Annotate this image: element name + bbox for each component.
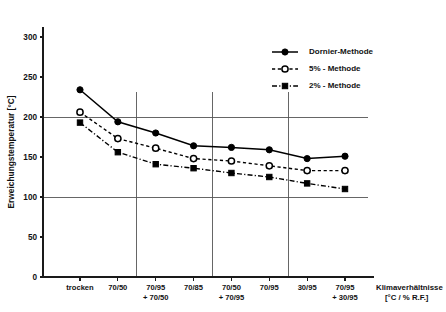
x-axis-ticks: trocken70/5070/95+ 70/5070/8570/50+ 70/9… [66, 277, 358, 302]
x-tick-label: trocken [66, 283, 94, 292]
marker-filled-square [229, 170, 234, 175]
legend-item-1: Dornier-Methode [272, 47, 374, 56]
y-tick-label: 250 [23, 73, 37, 82]
x-tick-label: 70/85 [184, 283, 204, 292]
axis-labels: Erweichungstemperatur [°C]Klimaverhältni… [6, 95, 443, 301]
marker-open-circle [77, 109, 83, 115]
marker-filled-square [153, 162, 158, 167]
legend-label: Dornier-Methode [309, 47, 374, 56]
y-axis-ticks: 050100150200250300 [23, 33, 43, 282]
chart-figure: 050100150200250300 trocken70/5070/95+ 70… [0, 0, 446, 312]
x-axis-title-line1: Klimaverhältnisse [376, 283, 443, 292]
marker-filled-circle [266, 147, 272, 153]
marker-open-circle [342, 168, 348, 174]
y-tick-label: 150 [23, 153, 37, 162]
x-tick-label: 30/95 [298, 283, 318, 292]
marker-open-circle [266, 163, 272, 169]
x-tick-label: 70/95 [146, 283, 166, 292]
marker-filled-square [267, 174, 272, 179]
marker-filled-square [191, 166, 196, 171]
marker-filled-circle [190, 143, 196, 149]
x-tick-label: 70/95 [335, 283, 355, 292]
marker-filled-circle [228, 144, 234, 150]
x-tick-label-second-line: + 70/95 [219, 293, 245, 302]
marker-filled-circle [115, 119, 121, 125]
marker-filled-square [342, 186, 347, 191]
x-tick-label: 70/95 [260, 283, 280, 292]
legend-label: 2% - Methode [309, 81, 361, 90]
y-axis-title: Erweichungstemperatur [°C] [6, 95, 16, 208]
y-tick-label: 100 [23, 193, 37, 202]
y-tick-label: 200 [23, 113, 37, 122]
marker-filled-square [304, 181, 309, 186]
marker-filled-square [77, 120, 82, 125]
y-tick-label: 0 [32, 273, 37, 282]
x-tick-label: 70/50 [108, 283, 127, 292]
marker-filled-circle [282, 49, 288, 55]
marker-open-circle [282, 66, 288, 72]
erweichungstemperatur-line-chart: 050100150200250300 trocken70/5070/95+ 70… [0, 0, 446, 312]
x-tick-label-second-line: + 70/50 [143, 293, 169, 302]
marker-open-circle [190, 156, 196, 162]
x-tick-label: 70/50 [222, 283, 241, 292]
marker-open-circle [115, 136, 121, 142]
marker-open-circle [153, 145, 159, 151]
legend-item-2: 5% - Methode [272, 64, 361, 73]
x-axis-title-line2: [°C / % R.F.] [385, 293, 429, 302]
x-tick-label-second-line: + 30/95 [332, 293, 358, 302]
chart-legend: Dornier-Methode5% - Methode2% - Methode [272, 47, 374, 90]
marker-filled-circle [153, 130, 159, 136]
legend-item-3: 2% - Methode [272, 81, 361, 90]
marker-filled-circle [77, 87, 83, 93]
marker-filled-square [115, 150, 120, 155]
legend-label: 5% - Methode [309, 64, 361, 73]
marker-open-circle [228, 158, 234, 164]
marker-filled-circle [342, 153, 348, 159]
marker-filled-square [282, 83, 287, 88]
marker-open-circle [304, 168, 310, 174]
marker-filled-circle [304, 156, 310, 162]
y-tick-label: 300 [23, 33, 37, 42]
y-tick-label: 50 [28, 233, 38, 242]
